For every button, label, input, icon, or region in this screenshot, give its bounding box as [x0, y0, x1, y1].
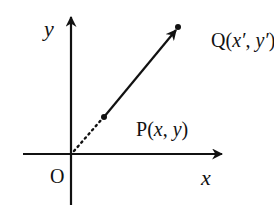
segment-o-to-p-dotted [74, 119, 102, 151]
point-p-name: P [136, 118, 147, 140]
y-axis-label: y [42, 16, 54, 41]
point-q-close-paren: ) [269, 29, 274, 52]
origin-label: O [50, 165, 64, 187]
x-axis-label: x [200, 165, 211, 190]
point-p-label: P(x, y) [111, 118, 203, 141]
point-q-sep: , [245, 29, 255, 51]
point-p-y: y [171, 118, 182, 141]
point-q-y: y′ [253, 29, 269, 52]
point-q-x: x′ [231, 29, 246, 51]
coordinate-diagram: y x O P(x, y) Q(x′, y′) [0, 0, 274, 213]
point-q-name: Q [211, 29, 226, 51]
point-p-sep: , [163, 118, 173, 140]
point-q [175, 24, 181, 30]
point-p-x: x [153, 118, 163, 140]
point-p [101, 114, 107, 120]
point-q-label: Q(x′, y′) [186, 29, 274, 52]
vector-p-to-q [104, 30, 176, 117]
point-p-close-paren: ) [182, 118, 189, 141]
